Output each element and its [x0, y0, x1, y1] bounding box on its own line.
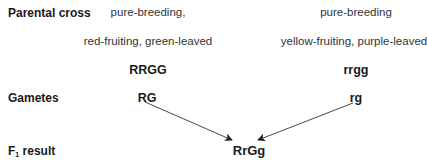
arrow-left-gamete-to-f1 — [145, 102, 232, 140]
arrow-right-gamete-to-f1 — [258, 103, 353, 140]
